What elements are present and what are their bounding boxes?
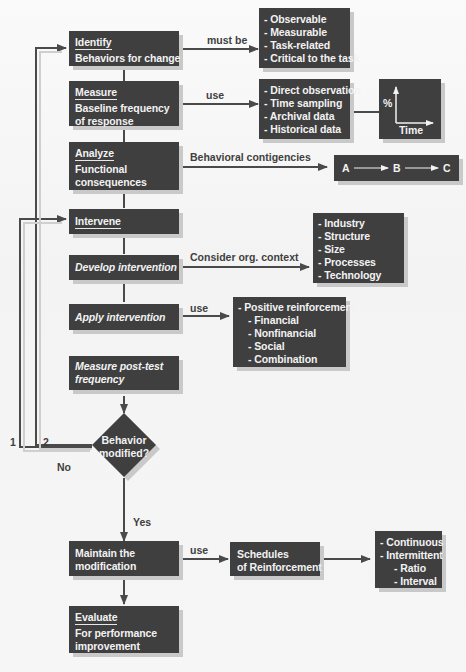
context-item: - Size	[318, 243, 399, 256]
label-loop-1: 1	[10, 436, 16, 448]
step-develop-text: Develop intervention	[75, 261, 173, 274]
step-analyze-text-1: Functional	[75, 163, 173, 176]
step-measure: Measure Baseline frequency of response	[69, 81, 179, 126]
step-identify-text: Behaviors for change	[75, 52, 173, 65]
abc-behavior: B	[393, 162, 400, 175]
step-evaluate-heading: Evaluate	[75, 611, 117, 625]
step-identify: Identify Behaviors for change	[69, 31, 179, 66]
decision-text-1: Behavior	[92, 434, 156, 447]
label-loop-2: 2	[43, 436, 49, 448]
step-maintain: Maintain the modification	[69, 541, 179, 576]
schedule-type-item: - Intermittent	[380, 549, 437, 562]
criteria-item: - Critical to the task	[264, 52, 345, 65]
label-behavioral-contigencies: Behavioral contigencies	[190, 151, 311, 163]
step-develop: Develop intervention	[69, 255, 179, 280]
reinforcement-sub-item: - Nonfinancial	[238, 327, 341, 340]
step-posttest-text-1: Measure post-test	[75, 360, 173, 373]
schedules-box: Schedules of Reinforcement	[230, 542, 320, 576]
step-apply-text: Apply intervention	[75, 311, 173, 324]
criteria-item: - Task-related	[264, 39, 345, 52]
step-analyze-text-2: consequences	[75, 176, 173, 189]
label-yes: Yes	[133, 516, 151, 528]
label-use-apply: use	[190, 302, 208, 314]
method-item: - Direct observation	[264, 84, 345, 97]
context-item: - Technology	[318, 269, 399, 282]
decision-text: Behavior modified?	[92, 434, 156, 460]
step-measure-text-2: of response	[75, 115, 173, 128]
label-use-maintain: use	[190, 544, 208, 556]
abc-consequence: C	[443, 162, 450, 175]
graph-y-label: %	[383, 97, 392, 110]
step-measure-heading: Measure	[75, 86, 117, 100]
label-must-be: must be	[207, 34, 247, 46]
schedule-type-sub-item: - Ratio	[380, 562, 437, 575]
reinforcement-sub-item: - Combination	[238, 353, 341, 366]
step-maintain-text-1: Maintain the	[75, 547, 173, 560]
abc-antecedent: A	[342, 162, 349, 175]
label-use-measure: use	[206, 89, 224, 101]
reinforcement-main: - Positive reinforcement	[238, 301, 341, 314]
method-item: - Historical data	[264, 123, 345, 136]
step-posttest: Measure post-test frequency	[69, 356, 179, 390]
criteria-item: - Measurable	[264, 26, 345, 39]
step-evaluate: Evaluate For performance improvement	[69, 606, 179, 653]
graph-x-label: Time	[399, 124, 423, 137]
flowchart-canvas: Identify Behaviors for change Measure Ba…	[0, 0, 466, 672]
context-item: - Industry	[318, 217, 399, 230]
step-analyze-heading: Analyze	[75, 147, 114, 161]
criteria-item: - Observable	[264, 13, 345, 26]
loop-2-to-intervene	[20, 219, 92, 447]
step-measure-text-1: Baseline frequency	[75, 102, 173, 115]
graph-box: % Time	[379, 79, 441, 139]
step-maintain-text-2: modification	[75, 560, 173, 573]
label-consider-org-context: Consider org. context	[190, 251, 299, 263]
context-item: - Structure	[318, 230, 399, 243]
reinforcement-sub-item: - Financial	[238, 314, 341, 327]
schedules-text-2: of Reinforcement	[237, 561, 313, 574]
step-posttest-text-2: frequency	[75, 373, 173, 386]
step-identify-heading: Identify	[75, 36, 112, 50]
reinforcement-box: - Positive reinforcement - Financial - N…	[233, 297, 346, 367]
decision-text-2: modified?	[92, 447, 156, 460]
schedules-text-1: Schedules	[237, 548, 313, 561]
methods-box: - Direct observation - Time sampling - A…	[259, 79, 350, 139]
step-apply: Apply intervention	[69, 304, 179, 330]
step-intervene: Intervene	[69, 209, 179, 234]
method-item: - Time sampling	[264, 97, 345, 110]
step-intervene-heading: Intervene	[75, 215, 121, 229]
context-box: - Industry - Structure - Size - Processe…	[313, 213, 404, 283]
schedule-type-sub-item: - Interval	[380, 575, 437, 588]
step-analyze: Analyze Functional consequences	[69, 142, 179, 190]
reinforcement-sub-item: - Social	[238, 340, 341, 353]
schedule-types-box: - Continuous - Intermittent - Ratio - In…	[375, 531, 442, 588]
step-evaluate-text-2: improvement	[75, 640, 173, 653]
criteria-box: - Observable - Measurable - Task-related…	[259, 8, 350, 68]
label-no: No	[57, 461, 71, 473]
schedule-type-item: - Continuous	[380, 536, 437, 549]
step-evaluate-text-1: For performance	[75, 627, 173, 640]
context-item: - Processes	[318, 256, 399, 269]
method-item: - Archival data	[264, 110, 345, 123]
abc-box: A B C	[334, 155, 459, 181]
